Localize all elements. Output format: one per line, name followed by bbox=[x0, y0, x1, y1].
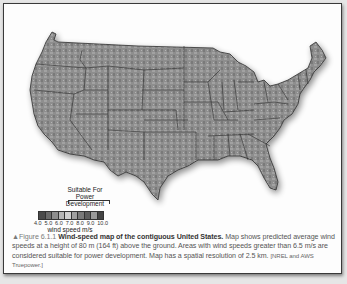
legend-title-line1: Suitable For bbox=[60, 186, 110, 193]
suitable-range-bracket bbox=[68, 200, 110, 204]
legend-tick: 10.0 bbox=[97, 220, 108, 226]
figure-marker-icon: ▲ bbox=[12, 233, 19, 241]
legend-unit-label: wind speed m/s bbox=[30, 226, 110, 233]
figure-caption: ▲Figure 6.1.1 Wind-speed map of the cont… bbox=[12, 233, 338, 270]
legend-color-scale bbox=[38, 211, 104, 220]
legend-swatch bbox=[98, 212, 104, 219]
us-landmass bbox=[30, 32, 326, 200]
figure-title: Wind-speed map of the contiguous United … bbox=[58, 233, 223, 241]
figure-label: Figure 6.1.1 bbox=[19, 233, 56, 241]
legend-tick: 4.0 bbox=[34, 220, 42, 226]
wind-speed-legend: Suitable For Power Development 4.0 5.0 6… bbox=[30, 186, 110, 233]
figure-frame: Suitable For Power Development 4.0 5.0 6… bbox=[3, 3, 342, 274]
